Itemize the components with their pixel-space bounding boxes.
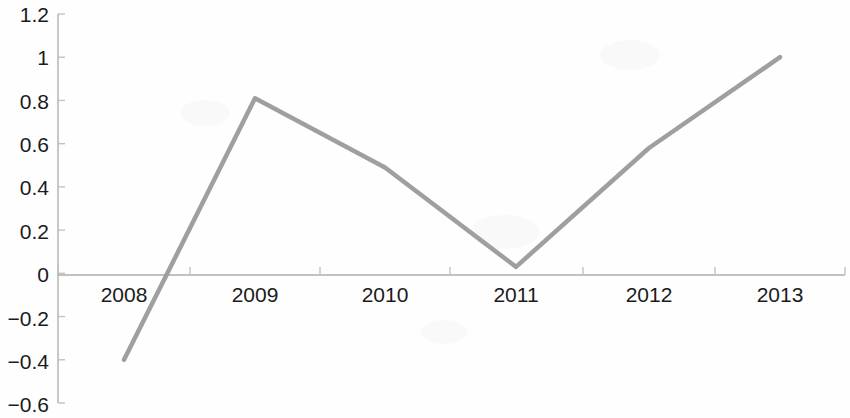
- y-tick-label: 0.4: [0, 177, 49, 198]
- y-tick-label: 1.2: [0, 4, 49, 25]
- x-tick-label: 2009: [205, 284, 305, 305]
- axis-layer: [58, 14, 845, 403]
- y-tick-label: 0.8: [0, 91, 49, 112]
- y-tick-label: −0.4: [0, 351, 49, 372]
- y-tick-label: 0.6: [0, 134, 49, 155]
- y-tick-label: −0.2: [0, 308, 49, 329]
- y-tick-label: 1: [0, 47, 49, 68]
- x-tick-label: 2013: [730, 284, 830, 305]
- y-tick-label: 0: [0, 264, 49, 285]
- plot-area: [0, 0, 850, 418]
- y-tick-label: −0.6: [0, 394, 49, 415]
- x-tick-label: 2010: [335, 284, 435, 305]
- x-tick-label: 2012: [599, 284, 699, 305]
- line-chart: 1.2 1 0.8 0.6 0.4 0.2 0 −0.2 −0.4 −0.6 2…: [0, 0, 850, 418]
- tick-layer: [58, 14, 845, 403]
- series-layer: [124, 57, 780, 360]
- y-tick-label: 0.2: [0, 221, 49, 242]
- x-tick-label: 2008: [74, 284, 174, 305]
- data-line: [124, 57, 780, 360]
- x-tick-label: 2011: [466, 284, 566, 305]
